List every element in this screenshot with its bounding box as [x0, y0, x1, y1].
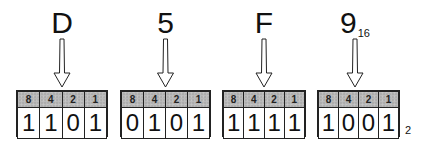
bit-cell: 1: [244, 108, 264, 139]
nibble-group-d: D 8 4 2 1 1 1 0 1: [16, 0, 108, 149]
nibble-table: 8 4 2 1 1 1 1 1: [222, 90, 306, 137]
nibble-table: 8 4 2 1 1 1 0 1: [16, 90, 108, 137]
hex-digit: F: [222, 8, 306, 38]
weight-cell: 4: [40, 92, 62, 108]
bit-cell: 0: [339, 108, 359, 139]
weight-cell: 1: [284, 92, 304, 108]
bit-cell: 1: [224, 108, 244, 139]
bit-cell: 1: [144, 108, 166, 139]
hex-digit: D: [16, 8, 108, 38]
hex-digit: 5: [120, 8, 211, 38]
down-arrow-icon: [317, 37, 400, 89]
weight-cell: 2: [166, 92, 188, 108]
weight-cell: 8: [319, 92, 339, 108]
weight-cell: 2: [62, 92, 84, 108]
nibble-table: 8 4 2 1 1 0 0 1: [317, 90, 400, 137]
nibble-table: 8 4 2 1 0 1 0 1: [120, 90, 211, 137]
weight-cell: 8: [122, 92, 144, 108]
down-arrow-icon: [120, 37, 211, 89]
bit-cell: 0: [359, 108, 379, 139]
down-arrow-icon: [16, 37, 108, 89]
weight-cell: 4: [339, 92, 359, 108]
bit-cell: 1: [379, 108, 399, 139]
bit-cell: 1: [84, 108, 106, 139]
weight-cell: 1: [84, 92, 106, 108]
bit-cell: 1: [319, 108, 339, 139]
bit-cell: 1: [188, 108, 210, 139]
nibble-group-9: 916 8 4 2 1 1 0 0 1: [317, 0, 400, 149]
weight-cell: 4: [244, 92, 264, 108]
weight-cell: 2: [264, 92, 284, 108]
bit-cell: 1: [264, 108, 284, 139]
weight-cell: 4: [144, 92, 166, 108]
bit-cell: 0: [122, 108, 144, 139]
weight-cell: 1: [188, 92, 210, 108]
weight-cell: 2: [359, 92, 379, 108]
nibble-group-5: 5 8 4 2 1 0 1 0 1: [120, 0, 211, 149]
bit-cell: 0: [166, 108, 188, 139]
bit-cell: 1: [284, 108, 304, 139]
down-arrow-icon: [222, 37, 306, 89]
weight-cell: 1: [379, 92, 399, 108]
bit-cell: 0: [62, 108, 84, 139]
bit-cell: 1: [18, 108, 40, 139]
bit-cell: 1: [40, 108, 62, 139]
weight-cell: 8: [224, 92, 244, 108]
base-2-subscript: 2: [405, 124, 411, 136]
weight-cell: 8: [18, 92, 40, 108]
nibble-group-f: F 8 4 2 1 1 1 1 1: [222, 0, 306, 149]
